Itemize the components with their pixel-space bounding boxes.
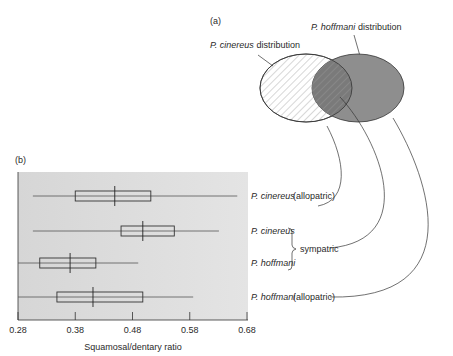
row-label-4-note: (allopatric) bbox=[293, 292, 335, 302]
cinereus-species: P. cinereus bbox=[210, 40, 254, 50]
plot-area bbox=[18, 172, 248, 320]
row-label-1-note: (allopatric) bbox=[293, 191, 335, 201]
x-tick-label: 0.68 bbox=[238, 325, 256, 335]
panel-b-label: (b) bbox=[15, 155, 26, 165]
row-label-4-species: P. hoffmani bbox=[251, 292, 296, 302]
cinereus-distribution-label: P. cinereus distribution bbox=[210, 40, 300, 50]
x-tick-label: 0.38 bbox=[66, 325, 84, 335]
row-label-3-species: P. hoffmani bbox=[251, 258, 296, 268]
x-axis-label: Squamosal/dentary ratio bbox=[84, 342, 182, 352]
panel-a-label: (a) bbox=[210, 16, 221, 26]
hoffmani-distribution-label: P. hoffmani distribution bbox=[311, 22, 401, 32]
x-tick-label: 0.58 bbox=[181, 325, 199, 335]
cinereus-distribution-text: distribution bbox=[254, 40, 300, 50]
hoffmani-leader-line bbox=[354, 35, 360, 56]
row-label-2-species: P. cinereus bbox=[251, 226, 295, 236]
hoffmani-species: P. hoffmani bbox=[311, 22, 356, 32]
figure: (a) P. cinereus distribution P. hoffmani… bbox=[0, 0, 453, 356]
x-tick-label: 0.48 bbox=[124, 325, 142, 335]
x-tick-label: 0.28 bbox=[9, 325, 27, 335]
connector-hoffmani-allopatric bbox=[330, 118, 428, 297]
cinereus-leader-line bbox=[258, 55, 273, 66]
hoffmani-distribution-text: distribution bbox=[355, 22, 401, 32]
sympatric-label: sympatric bbox=[300, 244, 339, 254]
row-label-1-species: P. cinereus bbox=[251, 191, 295, 201]
